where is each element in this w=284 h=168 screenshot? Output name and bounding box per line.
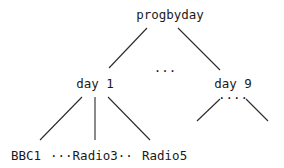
edge-root-day9 [178, 28, 220, 70]
root-node-label: progbyday [136, 7, 204, 22]
day1-node-label: day 1 [76, 76, 114, 91]
leaf-radio5: Radio5 [142, 148, 187, 163]
edge-root-day1 [109, 28, 147, 68]
day9-leaves-ellipsis: ···· [218, 90, 248, 105]
edge-day1-bbc1 [40, 97, 82, 140]
leaf-radio3: ···Radio3·· [50, 148, 133, 163]
edge-day1-radio5 [108, 97, 150, 140]
edge-day9-left [197, 99, 220, 121]
leaf-bbc1: BBC1 [11, 148, 41, 163]
middle-ellipsis: ... [154, 60, 177, 75]
tree-diagram: progbyday ... day 1 day 9 ···· BBC1 ···R… [0, 0, 284, 168]
day9-node-label: day 9 [214, 76, 252, 91]
edge-day9-right [246, 99, 268, 121]
